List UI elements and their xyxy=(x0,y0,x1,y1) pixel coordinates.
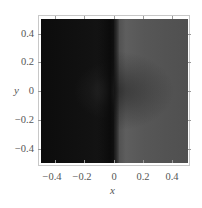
x-tick-label: 0 xyxy=(111,172,116,183)
x-tick-label: 0.2 xyxy=(136,172,149,183)
y-tick-right xyxy=(188,120,191,121)
right-origin-shade xyxy=(114,19,188,163)
y-tick-left xyxy=(38,149,41,150)
x-tick-bottom xyxy=(114,160,115,163)
y-axis-title: y xyxy=(14,84,19,96)
x-tick-top xyxy=(143,16,144,19)
y-tick-right xyxy=(188,91,191,92)
y-tick-right xyxy=(188,149,191,150)
discontinuity-boundary xyxy=(97,19,119,163)
y-tick-label: 0.2 xyxy=(2,57,34,68)
x-tick-bottom xyxy=(172,160,173,163)
x-tick-top xyxy=(84,16,85,19)
x-tick-top xyxy=(114,16,115,19)
y-tick-right xyxy=(188,34,191,35)
density-plot-area xyxy=(41,19,188,163)
x-tick-label: −0.4 xyxy=(42,172,61,183)
y-tick-label: 0.4 xyxy=(2,29,34,40)
x-tick-label: −0.2 xyxy=(72,172,91,183)
y-tick-left xyxy=(38,91,41,92)
y-tick-right xyxy=(188,62,191,63)
y-tick-left xyxy=(38,34,41,35)
x-tick-bottom xyxy=(143,160,144,163)
y-tick-label: −0.4 xyxy=(2,144,34,155)
x-tick-top xyxy=(172,16,173,19)
y-tick-left xyxy=(38,62,41,63)
x-tick-label: 0.4 xyxy=(165,172,178,183)
y-tick-label: −0.2 xyxy=(2,115,34,126)
y-tick-left xyxy=(38,120,41,121)
x-axis-title: x xyxy=(110,184,115,196)
x-tick-top xyxy=(55,16,56,19)
x-tick-bottom xyxy=(55,160,56,163)
x-tick-bottom xyxy=(84,160,85,163)
